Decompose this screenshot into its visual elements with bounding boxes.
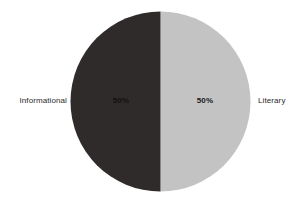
pie-slice-value-informational: 50% xyxy=(113,96,130,105)
pie-slice-value-literary: 50% xyxy=(197,96,214,105)
pie-chart-graphic xyxy=(70,11,251,192)
pie-chart-figure: 50% 50% Informational Literary xyxy=(0,0,295,211)
pie-category-label-literary: Literary xyxy=(258,96,285,105)
pie-svg xyxy=(70,11,251,192)
pie-category-label-informational: Informational xyxy=(19,96,67,105)
